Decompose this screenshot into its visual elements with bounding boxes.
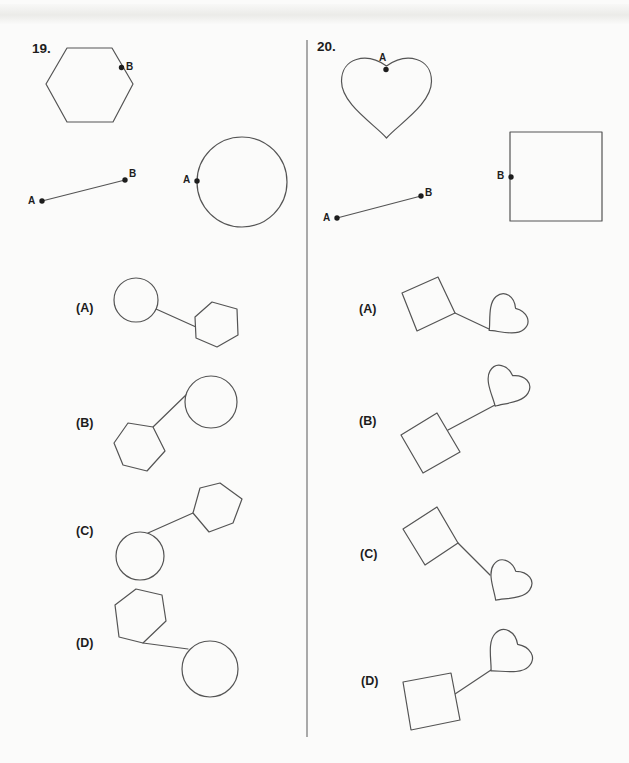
hexagon-shape	[195, 302, 238, 347]
q19-choice-a-art	[114, 278, 238, 347]
heart-shape	[476, 361, 534, 417]
circle-shape	[185, 376, 237, 428]
point-a-dot	[383, 67, 388, 72]
circle-shape	[116, 532, 164, 580]
point-a-dot	[194, 178, 199, 183]
point-a-label: A	[183, 174, 190, 186]
choice-b-label: (B)	[359, 414, 376, 428]
point-a-dot	[39, 198, 44, 203]
connector-line	[143, 643, 188, 649]
hexagon-shape	[115, 589, 166, 643]
choice-a-label: (A)	[76, 301, 93, 315]
q19-choice-d-art	[115, 589, 238, 697]
point-b-dot	[508, 174, 513, 179]
connector-line	[455, 313, 489, 329]
choice-d-label: (D)	[361, 674, 378, 688]
q19-choice-c-art	[116, 483, 242, 580]
q19-choice-b-art	[114, 376, 237, 471]
connector-line	[448, 405, 495, 430]
point-a-dot	[334, 215, 339, 220]
connector-line	[148, 513, 193, 533]
square-shape	[403, 507, 458, 565]
choice-c-label: (C)	[76, 524, 93, 538]
heart-shape	[478, 556, 536, 613]
square-shape	[402, 277, 455, 331]
q20-choice-b-art	[401, 361, 534, 473]
heart-shape	[474, 625, 537, 688]
worksheet-page: 19. B A B A (A) (B) (C) (D) 20. A A B B …	[0, 0, 629, 763]
connector-line	[153, 393, 188, 427]
connector-line	[156, 309, 196, 327]
point-b-label: B	[425, 187, 432, 199]
column-divider	[306, 40, 308, 737]
q20-stimulus-art	[334, 58, 602, 221]
point-a-label: A	[323, 212, 330, 224]
heart-shape	[475, 290, 532, 347]
q20-choice-a-art	[402, 277, 532, 347]
segment-ab-line	[337, 196, 421, 218]
question-number: 19.	[32, 41, 51, 57]
point-b-dot	[119, 65, 124, 70]
segment-ab-line	[42, 180, 125, 201]
hexagon-shape	[193, 483, 242, 532]
circle-shape	[114, 278, 158, 322]
choice-c-label: (C)	[360, 547, 377, 561]
choice-a-label: (A)	[359, 302, 376, 316]
q20-choice-c-art	[403, 507, 536, 613]
circle-shape	[197, 137, 287, 227]
circle-shape	[182, 641, 238, 697]
hexagon-shape	[114, 423, 165, 471]
point-b-label: B	[497, 170, 504, 182]
point-a-label: A	[379, 52, 386, 64]
hexagon-shape	[46, 48, 133, 122]
point-b-dot	[122, 177, 127, 182]
question-number: 20.	[317, 39, 336, 55]
square-shape	[401, 413, 460, 473]
worksheet-art	[0, 0, 629, 763]
q19-stimulus-art	[39, 48, 287, 227]
point-b-label: B	[126, 61, 133, 73]
choice-b-label: (B)	[76, 416, 93, 430]
point-a-label: A	[28, 195, 35, 207]
connector-line	[455, 670, 491, 694]
q20-choice-d-art	[403, 625, 537, 730]
square-shape	[510, 132, 602, 221]
connector-line	[458, 543, 490, 575]
point-b-dot	[418, 193, 423, 198]
choice-d-label: (D)	[76, 636, 93, 650]
point-b-label: B	[129, 168, 136, 180]
square-shape	[403, 673, 460, 730]
